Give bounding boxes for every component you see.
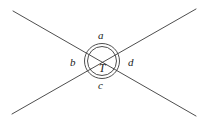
label-d: d [128, 57, 134, 68]
label-a: a [98, 30, 104, 41]
label-t-center: T [99, 63, 105, 75]
label-c: c [98, 80, 103, 91]
label-b: b [70, 57, 76, 68]
geometry-figure: a b c d T [0, 0, 204, 125]
